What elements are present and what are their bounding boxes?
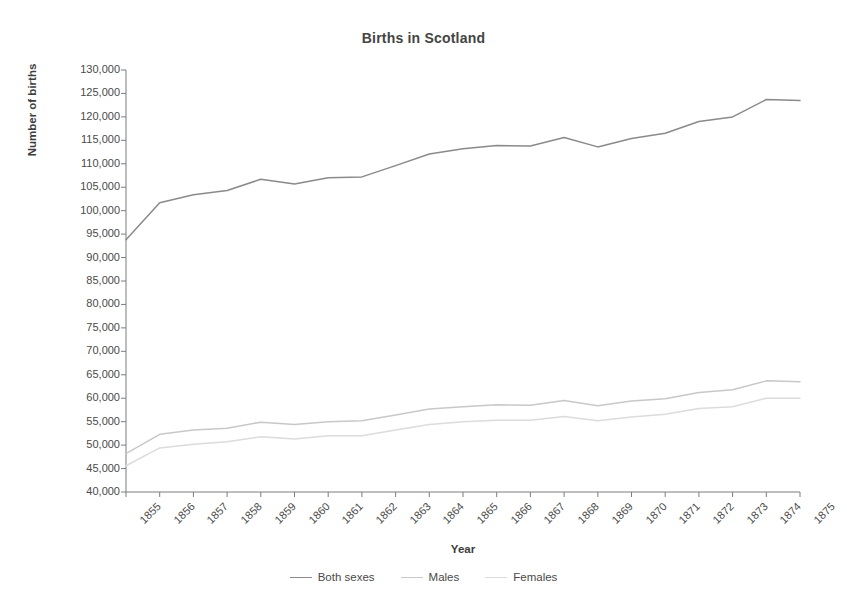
x-axis-tick-label: 1864: [440, 500, 466, 526]
x-axis-tick-label: 1874: [777, 500, 803, 526]
x-axis-tick-label: 1871: [676, 500, 702, 526]
x-axis-tick-label: 1870: [643, 500, 669, 526]
x-axis-tick-label: 1867: [542, 500, 568, 526]
legend-item[interactable]: Both sexes: [290, 570, 375, 584]
x-axis-tick-label: 1872: [710, 500, 736, 526]
x-axis-tick-labels: 1855185618571858185918601861186218631864…: [0, 0, 847, 610]
x-axis-tick-label: 1858: [238, 500, 264, 526]
x-axis-tick-label: 1868: [575, 500, 601, 526]
x-axis-tick-label: 1866: [508, 500, 534, 526]
legend-label: Females: [513, 570, 557, 584]
legend-item[interactable]: Males: [401, 570, 460, 584]
x-axis-tick-label: 1855: [137, 500, 163, 526]
line-chart: Births in Scotland Number of births Year…: [0, 0, 847, 610]
x-axis-tick-label: 1860: [306, 500, 332, 526]
x-axis-tick-label: 1875: [811, 500, 837, 526]
legend-swatch-icon: [401, 577, 423, 578]
x-axis-tick-label: 1861: [339, 500, 365, 526]
legend-label: Males: [429, 570, 460, 584]
legend-swatch-icon: [290, 577, 312, 578]
x-axis-tick-label: 1857: [205, 500, 231, 526]
x-axis-tick-label: 1869: [609, 500, 635, 526]
x-axis-tick-label: 1862: [373, 500, 399, 526]
x-axis-tick-label: 1859: [272, 500, 298, 526]
legend-label: Both sexes: [318, 570, 375, 584]
x-axis-tick-label: 1856: [171, 500, 197, 526]
legend-item[interactable]: Females: [485, 570, 557, 584]
chart-legend: Both sexesMalesFemales: [0, 570, 847, 584]
x-axis-tick-label: 1865: [474, 500, 500, 526]
legend-swatch-icon: [485, 577, 507, 578]
x-axis-tick-label: 1873: [744, 500, 770, 526]
x-axis-tick-label: 1863: [407, 500, 433, 526]
